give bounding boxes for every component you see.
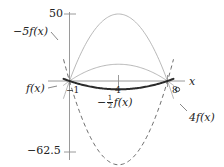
curve-label-minus-5f: −5f(x) [13,26,48,37]
leader-f-of-x [48,86,57,88]
x-tick-label-4: 4 [115,86,121,95]
curve-label-4f: 4f(x) [189,112,215,123]
curve-label-minus-half-f: −12f(x) [97,95,133,111]
x-axis-label: x [189,76,195,87]
y-tick-label-50: 50 [49,8,63,19]
f-of-x-text: f(x) [114,96,133,109]
minus-sign: − [97,96,106,109]
function-transformation-figure: 50 −62.5 −1 4 8 x −5f(x) f(x) 4f(x) −12f… [0,0,224,167]
y-tick-label-minus-62-5: −62.5 [27,145,61,156]
fraction-denominator: 2 [107,103,113,110]
x-tick-label-8: 8 [172,86,178,95]
one-half-fraction: 12 [107,95,113,111]
leader-4f [180,104,187,111]
leader-minus-5f [51,32,58,40]
x-tick-label-minus-1: −1 [66,86,79,95]
curve-label-f: f(x) [26,83,45,94]
